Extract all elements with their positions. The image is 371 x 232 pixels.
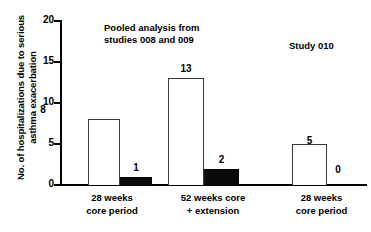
x-group-label-1: 28 weeks core period xyxy=(60,192,164,217)
bar-value-group1-filled: 1 xyxy=(120,163,152,173)
bar-value-group2-open: 13 xyxy=(168,64,204,74)
annotation-pooled-analysis: Pooled analysis from studies 008 and 009 xyxy=(104,22,200,46)
x-group-label-3: 28 weeks core period xyxy=(272,192,371,217)
bar-group1-open xyxy=(88,119,120,185)
x-group-label-3-line1: 28 weeks xyxy=(272,192,371,205)
annotation-pooled-line2: studies 008 and 009 xyxy=(104,34,200,46)
x-group-label-2-line2: + extension xyxy=(155,205,271,218)
bar-value-group1-open: 8 xyxy=(27,105,59,115)
bar-chart-figure: No. of hospitalizations due to serious a… xyxy=(0,0,371,232)
bar-group2-open xyxy=(168,78,204,185)
y-tick-label-20: 20 xyxy=(28,15,54,25)
bar-value-group2-filled: 2 xyxy=(204,155,239,165)
bar-value-group3-open: 5 xyxy=(292,136,327,146)
y-tick-label-5: 5 xyxy=(28,138,54,148)
bar-value-group3-filled: 0 xyxy=(331,165,345,175)
bar-group1-filled xyxy=(120,177,152,185)
annotation-study010-line1: Study 010 xyxy=(289,40,334,52)
bar-group2-filled xyxy=(204,169,239,186)
x-group-label-1-line2: core period xyxy=(60,205,164,218)
y-tick-label-20-wrap: 20 xyxy=(20,15,54,25)
y-tick-label-0: 0 xyxy=(28,179,54,189)
y-axis-title: No. of hospitalizations due to serious a… xyxy=(0,0,40,190)
y-tick-label-15: 15 xyxy=(28,56,54,66)
annotation-study-010: Study 010 xyxy=(289,40,334,52)
y-tick-label-0-wrap: 0 xyxy=(20,179,54,189)
y-tick-label-5-wrap: 5 xyxy=(20,138,54,148)
x-group-label-2: 52 weeks core + extension xyxy=(155,192,271,217)
bar-group3-open xyxy=(292,144,327,185)
x-group-label-3-line2: core period xyxy=(272,205,371,218)
x-group-label-2-line1: 52 weeks core xyxy=(155,192,271,205)
annotation-pooled-line1: Pooled analysis from xyxy=(104,22,200,34)
x-group-label-1-line1: 28 weeks xyxy=(60,192,164,205)
y-tick-label-15-wrap: 15 xyxy=(20,56,54,66)
